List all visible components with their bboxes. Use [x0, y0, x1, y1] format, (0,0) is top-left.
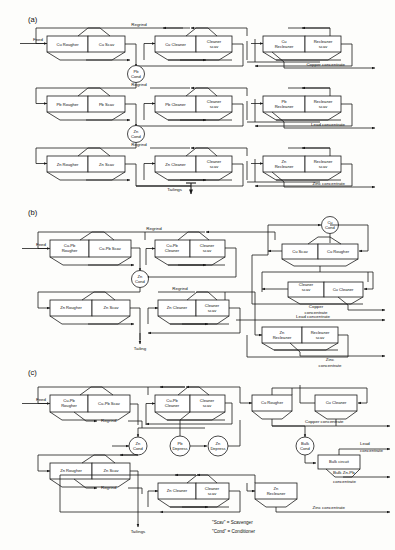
- cu-cleaner-scav-label2: scav: [210, 44, 219, 49]
- cu-rougher-label-c: Cu Rougher: [261, 400, 284, 405]
- bulk-cond-label2-c: Cond: [300, 446, 311, 451]
- bulk-scav-tail-c: [130, 404, 138, 425]
- pb-rougher-conc-funnel: [78, 88, 110, 96]
- zn-cleaner-conc-funnel-b: [187, 292, 217, 300]
- pb-rougher-label: Pb Rougher: [57, 102, 79, 107]
- zn-cl-scav-tail-b: [229, 308, 240, 333]
- into-cu-cleaner-b: [364, 282, 373, 289]
- cu-cleaner-label: Cu Cleaner: [165, 42, 186, 47]
- tailings-label-c: Tailings: [131, 529, 146, 534]
- bulk-rougher-tail-funnel-c: [50, 412, 130, 420]
- pb-rougher-tail-funnel: [47, 112, 125, 120]
- regrind-low-label-c: Regrind: [101, 485, 117, 490]
- bulk-rougher-label2-b: Rougher: [62, 248, 78, 253]
- cu-rougher-tail-funnel-b: [282, 259, 358, 266]
- cu-rougher-conc-funnel: [78, 28, 110, 36]
- zn-rougher-label-b: Zn Rougher: [60, 305, 82, 310]
- cu-rougher-label-b: Cu Rougher: [327, 249, 350, 254]
- zn-cond-label2-b: Cond: [135, 279, 146, 284]
- panel-a-row-cu: Cu Rougher Cu Scav Feed Regrind: [20, 22, 375, 68]
- zn-rougher-label-a: Zn Rougher: [57, 162, 79, 167]
- copper-concentrate-label: Copper concentrate: [306, 62, 345, 67]
- regrind-mid-label-b: Regrind: [172, 286, 188, 291]
- regrind-label-a2: Regrind: [131, 82, 147, 87]
- bulk-cleaner-conc-funnel-c: [178, 387, 209, 395]
- zn-recl-scav-label2-a: scav: [319, 164, 328, 169]
- bulk-cleaner-conc-funnel-b: [178, 232, 209, 240]
- pb-cl-scav-tail: [232, 104, 243, 120]
- zn-cl-recirc-loop-c: [60, 475, 138, 512]
- legend-scav: "Scav" = Scavenger: [212, 520, 253, 525]
- bulk-scav-tail-b: [131, 248, 140, 265]
- legend-cond: "Cond" = Conditioner: [212, 529, 255, 534]
- zn-cleaner-tail-funnel-b: [158, 316, 229, 324]
- cu-rougher-conc-funnel-b: [308, 237, 341, 244]
- cu-scav-tail-a: [125, 44, 136, 60]
- zn-scav-label-c: Zn Scav: [103, 468, 119, 473]
- zn-rougher-tail-funnel-c: [50, 479, 130, 487]
- cu-cleaner-conc-funnel: [186, 28, 217, 36]
- recleaner-return-a1: [288, 28, 330, 36]
- regrind-top-label-b: Regrind: [146, 226, 162, 231]
- tailings-label-a: Tailings: [167, 187, 182, 192]
- cu-rougher-tail-funnel-c: [252, 411, 292, 419]
- cu-recleaner-label2: Recleaner: [275, 44, 294, 49]
- panel-a-row-zn: Zn Rougher Zn Scav Regrind Zn Cleaner Cl…: [36, 142, 375, 187]
- into-zn-recleaner-b: [255, 292, 262, 335]
- zn-recleaner-label2-a: Recleaner: [275, 164, 294, 169]
- zinc-conc-label-c: Zinc concentrate: [313, 505, 346, 510]
- cl-scav-tail-a: [232, 44, 243, 60]
- zn-rougher-conc-funnel-a: [78, 148, 110, 156]
- zn-recleaner-label2-c: Recleaner: [267, 491, 286, 496]
- panel-c-label: (c): [28, 368, 37, 377]
- zn-depress-label2-c: Depress: [210, 446, 225, 451]
- zn-cleaner-label-b: Zn Cleaner: [167, 305, 188, 310]
- zn-recl-conc-drop-b: [290, 343, 300, 356]
- pb-cond-label2: Cond: [131, 74, 142, 79]
- cu-cleaner-label-c: Cu Cleaner: [326, 400, 347, 405]
- pb-recl-tail-funnel: [263, 112, 341, 120]
- cu-scav-label-b: Cu Scav: [292, 249, 308, 254]
- zn-scav-label-b: Zn Scav: [103, 305, 119, 310]
- bulk-cl-scav-tail-c: [225, 403, 232, 424]
- bulk-cleaner-tail-funnel-c: [155, 412, 225, 420]
- cu-cond-label2-b: Cond: [325, 225, 336, 230]
- regrind-label-a1: Regrind: [131, 22, 147, 27]
- bulk-cl-scav-label2-c: scav: [203, 403, 212, 408]
- pb-recleaner-label2: Recleaner: [275, 104, 294, 109]
- cu-cl-scav-label2-b: scav: [302, 287, 311, 292]
- zn-cleaner-tail-funnel-a: [155, 172, 232, 180]
- zn-cleaner-tail-funnel-c: [158, 499, 229, 507]
- zn-scav-label-a: Zn Scav: [99, 162, 115, 167]
- zn-recl-scav-tail-b: [338, 335, 348, 357]
- bulk-scav-label-b: Cu-Pb Scav: [99, 246, 122, 251]
- copper-conc-label1-b: Copper: [309, 304, 324, 309]
- zn-recl-conc-drop-a: [272, 172, 284, 187]
- panel-a-row-pb: Pb Rougher Pb Scav Regrind Pb Cleaner Cl…: [36, 82, 375, 128]
- recleaner-return-a3: [288, 148, 330, 156]
- pb-cleaner-conc-funnel: [186, 88, 217, 96]
- tailing-label-b: Tailing: [134, 346, 147, 351]
- cu-rougher-tail-funnel: [47, 52, 125, 60]
- flowsheet-figure: (a) Cu Rougher Cu Scav Feed Regrind: [0, 0, 395, 550]
- recleaner-return-a2: [288, 88, 330, 96]
- bulk-conc-label1-c: Bulk Zn-Pb: [333, 470, 355, 475]
- lead-conc-label2-c: concentrate: [360, 448, 384, 453]
- zn-recl-tail-funnel-c: [255, 499, 297, 507]
- zn-recl-tail-funnel-a: [263, 172, 341, 180]
- zinc-conc-label1-b: Zinc: [326, 357, 335, 362]
- bulk-cl-scav-tail-b: [225, 248, 236, 277]
- regrind-label-a3: Regrind: [131, 142, 147, 147]
- zn-rougher-tail-funnel-a: [47, 172, 125, 180]
- pb-depress-label2-c: Depress: [172, 446, 187, 451]
- zn-scav-tail-b: [130, 308, 140, 324]
- panel-a: (a) Cu Rougher Cu Scav Feed Regrind: [20, 15, 375, 194]
- panel-b-feed-label: Feed: [36, 242, 47, 247]
- zn-cl-scav-tail-c: [229, 491, 240, 512]
- bulk-cleaner-label2-c: Cleaner: [165, 403, 180, 408]
- panel-b: (b) Cu-Pb Rougher Cu-Pb Scav Feed Regrin…: [22, 208, 385, 368]
- pb-cleaner-tail-funnel: [155, 112, 232, 120]
- bulk-cond-to-circuit-c: [305, 455, 316, 463]
- bulk-circuit-label-c: Bulk circuit: [329, 459, 350, 464]
- zn-rougher-label-c: Zn Rougher: [60, 468, 82, 473]
